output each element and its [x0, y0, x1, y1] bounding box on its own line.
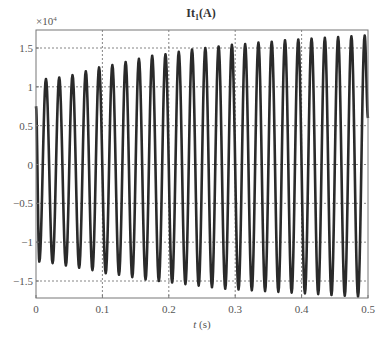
x-tick-label: 0.1 [96, 303, 110, 315]
chart-title: It1(A) [186, 6, 215, 22]
y-tick-label: 0.5 [19, 120, 33, 132]
y-tick-label: 1 [28, 81, 34, 93]
y-tick-label: −1 [21, 236, 33, 248]
y-multiplier: ×104 [36, 15, 57, 27]
x-tick-label: 0.2 [162, 303, 176, 315]
y-tick-label: 0 [28, 159, 34, 171]
y-tick-label: 1.5 [19, 42, 33, 54]
waveform-it1 [36, 36, 368, 297]
x-axis-label: t (s) [193, 318, 211, 331]
x-tick-label: 0.3 [228, 303, 242, 315]
x-tick-label: 0 [33, 303, 39, 315]
y-tick-label: −1.5 [13, 275, 33, 287]
y-axis-ticks: 1.510.50−0.5−1−1.5 [13, 42, 39, 287]
series-it1-line [36, 36, 368, 297]
y-tick-label: −0.5 [13, 197, 33, 209]
chart: 1.510.50−0.5−1−1.5 00.10.20.30.40.5 ×104… [0, 0, 386, 338]
x-tick-label: 0.4 [295, 303, 309, 315]
x-tick-label: 0.5 [361, 303, 375, 315]
